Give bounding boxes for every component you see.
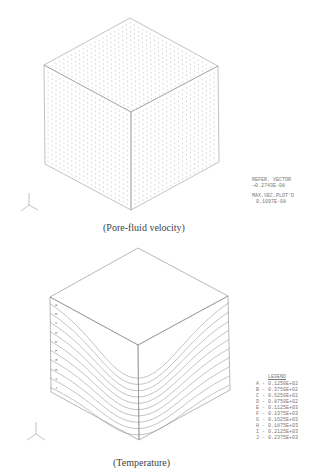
contour-label: E (55, 340, 58, 344)
ref-vector-value: ⟶0.2743E-08 (252, 183, 285, 189)
contour-labels: ABCDEFGHIJ (55, 303, 58, 391)
cube2-top-face (50, 248, 228, 345)
legend-title: LEGEND (268, 374, 286, 380)
contour-label: A (55, 303, 58, 307)
contour-label: G (55, 358, 58, 362)
axis-triad-1 (21, 193, 38, 211)
cube1-top-face (44, 18, 218, 112)
velocity-cube (44, 18, 219, 210)
caption-temperature: (Temperature) (113, 457, 170, 468)
contour-label: I (55, 377, 57, 381)
legend-row: J - 0.2375E+03 (256, 435, 298, 441)
cube2-right-face (138, 296, 230, 440)
axis-triad-2 (27, 422, 45, 440)
contour-label: C (55, 321, 58, 325)
temperature-cube (50, 248, 230, 440)
contour-label: F (55, 349, 58, 353)
caption-velocity: (Pore-fluid velocity) (103, 222, 185, 233)
contour-label: D (55, 331, 58, 335)
contour-label: B (55, 312, 58, 316)
cube1-right-face (131, 66, 219, 210)
contour-label: H (55, 368, 58, 372)
max-vector-value: 0.1097E-08 (256, 199, 286, 205)
contour-label: J (55, 386, 57, 390)
temperature-contours (50, 303, 229, 435)
